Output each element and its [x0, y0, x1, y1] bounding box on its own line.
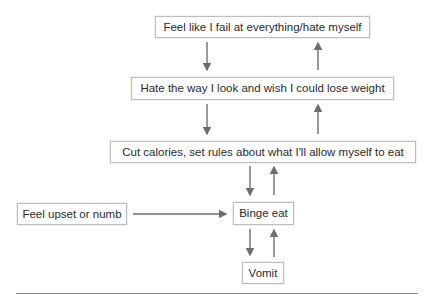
bottom-rule	[16, 293, 418, 294]
arrows-layer	[0, 0, 432, 299]
